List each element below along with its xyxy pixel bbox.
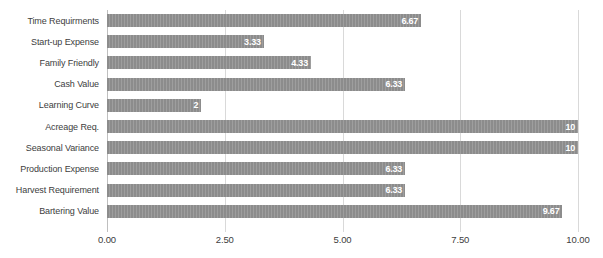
x-tick-label: 2.50	[216, 234, 234, 245]
bar-value-label: 4.33	[291, 58, 308, 67]
category-label: Production Expense	[0, 158, 103, 179]
bar: 6.33	[107, 184, 405, 197]
category-axis-labels: Time RequirmentsStart-up ExpenseFamily F…	[0, 10, 103, 232]
x-axis-tick-labels: 0.002.505.007.5010.00	[0, 234, 603, 254]
bar-value-label: 6.33	[385, 186, 402, 195]
category-label: Learning Curve	[0, 95, 103, 116]
x-tick-label: 5.00	[333, 234, 351, 245]
bar: 10	[107, 141, 578, 154]
bar-value-label: 9.67	[543, 207, 560, 216]
bar-row: 10	[107, 116, 578, 137]
bar-chart: Time RequirmentsStart-up ExpenseFamily F…	[0, 0, 603, 258]
category-label: Start-up Expense	[0, 31, 103, 52]
bar-row: 10	[107, 137, 578, 158]
category-label: Acreage Req.	[0, 116, 103, 137]
category-label: Harvest Requirement	[0, 180, 103, 201]
bar: 2	[107, 99, 201, 112]
bar: 9.67	[107, 205, 562, 218]
bar-row: 6.33	[107, 74, 578, 95]
bars-layer: 6.673.334.336.33210106.336.339.67	[107, 10, 578, 232]
category-label: Bartering Value	[0, 201, 103, 222]
bar-row: 6.33	[107, 180, 578, 201]
bar-row: 2	[107, 95, 578, 116]
bar: 6.67	[107, 14, 421, 27]
bar-row: 6.33	[107, 158, 578, 179]
bar-value-label: 6.67	[401, 16, 418, 25]
x-tick-label: 0.00	[98, 234, 116, 245]
gridline-10.00	[578, 10, 579, 232]
bar-row: 9.67	[107, 201, 578, 222]
bar: 4.33	[107, 56, 311, 69]
bar: 6.33	[107, 162, 405, 175]
bar-value-label: 6.33	[385, 80, 402, 89]
plot-area: 6.673.334.336.33210106.336.339.67	[107, 10, 578, 232]
bar-value-label: 10	[565, 122, 575, 131]
x-tick-label: 7.50	[451, 234, 469, 245]
category-label: Family Friendly	[0, 52, 103, 73]
x-tick-label: 10.00	[566, 234, 589, 245]
bar-value-label: 6.33	[385, 164, 402, 173]
bar: 10	[107, 120, 578, 133]
bar-value-label: 2	[193, 101, 198, 110]
bar: 3.33	[107, 35, 264, 48]
bar-row: 4.33	[107, 52, 578, 73]
bar-row: 6.67	[107, 10, 578, 31]
category-label: Seasonal Variance	[0, 137, 103, 158]
bar-value-label: 3.33	[244, 37, 261, 46]
category-label: Cash Value	[0, 74, 103, 95]
bar-value-label: 10	[565, 143, 575, 152]
bar: 6.33	[107, 78, 405, 91]
bar-row: 3.33	[107, 31, 578, 52]
category-label: Time Requirments	[0, 10, 103, 31]
